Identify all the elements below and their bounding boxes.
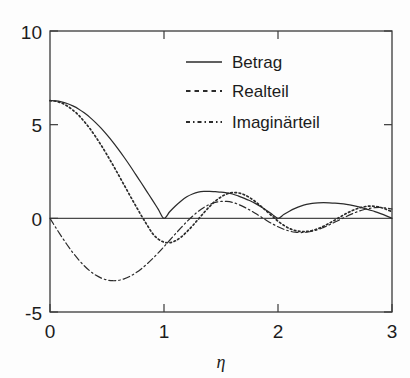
y-tick-label-0: 10	[21, 22, 42, 43]
legend-label-realteil: Realteil	[232, 82, 289, 101]
x-tick-label-1: 1	[159, 321, 170, 342]
y-axis-ticks	[50, 31, 392, 312]
series-line-imaginaerteil	[50, 201, 392, 280]
chart-canvas: 10 5 0 -5 0 1 2 3 η Betrag Realteil Im	[0, 0, 410, 378]
x-axis-label: η	[217, 352, 226, 372]
legend: Betrag Realteil Imaginärteil	[186, 53, 320, 132]
x-tick-label-3: 3	[387, 321, 398, 342]
series-line-betrag	[50, 101, 392, 219]
legend-entry-betrag[interactable]: Betrag	[186, 53, 282, 72]
x-tick-label-2: 2	[273, 321, 284, 342]
x-tick-label-0: 0	[45, 321, 56, 342]
x-axis-ticks	[50, 31, 392, 312]
y-tick-label-3: -5	[25, 303, 42, 324]
figure-container: 10 5 0 -5 0 1 2 3 η Betrag Realteil Im	[0, 0, 410, 378]
y-tick-label-1: 5	[31, 115, 42, 136]
legend-label-imaginaerteil: Imaginärteil	[232, 113, 320, 132]
legend-label-betrag: Betrag	[232, 53, 282, 72]
y-tick-label-2: 0	[31, 209, 42, 230]
plot-frame	[50, 31, 392, 312]
legend-entry-realteil[interactable]: Realteil	[186, 82, 289, 101]
legend-entry-imaginaerteil[interactable]: Imaginärteil	[186, 113, 320, 132]
